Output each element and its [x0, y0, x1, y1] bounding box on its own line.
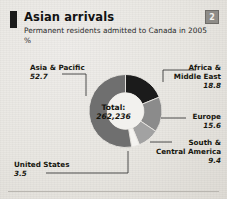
slice-label-south-name-2: Central America	[156, 147, 221, 156]
slice-label-us-name: United States	[14, 160, 69, 169]
slice-label-africa: Africa & Middle East 18.8	[174, 63, 221, 91]
slice-label-asia-value: 52.7	[30, 72, 85, 81]
slice-label-south-central-america: South & Central America 9.4	[156, 138, 221, 166]
donut-center-total-value: 262,236	[0, 112, 227, 122]
slice-label-africa-name-1: Africa &	[174, 63, 221, 72]
chart-figure: Asian arrivals Permanent residents admit…	[0, 0, 227, 199]
slice-label-africa-name-2: Middle East	[174, 72, 221, 81]
slice-label-us-value: 3.5	[14, 169, 69, 178]
bottom-rule	[8, 191, 219, 192]
slice-label-united-states: United States 3.5	[14, 160, 69, 178]
slice-label-south-value: 9.4	[156, 156, 221, 165]
slice-label-africa-value: 18.8	[174, 81, 221, 90]
slice-label-asia: Asia & Pacific 52.7	[30, 63, 85, 81]
slice-label-south-name-1: South &	[156, 138, 221, 147]
slice-label-europe-value: 15.6	[192, 121, 221, 130]
slice-label-asia-name: Asia & Pacific	[30, 63, 85, 72]
